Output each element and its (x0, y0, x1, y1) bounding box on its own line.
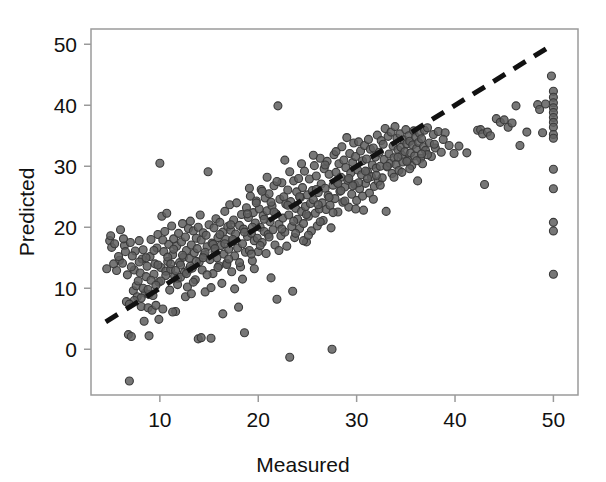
data-point (274, 102, 282, 110)
data-point (403, 157, 411, 165)
data-point (542, 100, 550, 108)
data-point (539, 129, 547, 137)
data-point (107, 232, 115, 240)
data-point (286, 168, 294, 176)
data-point (316, 218, 324, 226)
data-point (159, 305, 167, 313)
data-point (252, 199, 260, 207)
data-point (343, 134, 351, 142)
data-point (111, 240, 119, 248)
data-point (376, 181, 384, 189)
data-point (418, 135, 426, 143)
data-point (390, 173, 398, 181)
y-tick-label: 10 (54, 277, 77, 300)
data-point (135, 258, 143, 266)
data-point (394, 153, 402, 161)
data-point (332, 148, 340, 156)
data-point (196, 211, 204, 219)
data-point (245, 184, 253, 192)
data-point (267, 274, 275, 282)
data-point (233, 199, 241, 207)
data-point (127, 332, 135, 340)
data-point (437, 148, 445, 156)
data-point (258, 187, 266, 195)
data-point (243, 210, 251, 218)
data-point (547, 72, 555, 80)
x-tick-label: 20 (247, 408, 270, 431)
y-axis-title: Predicted (15, 168, 38, 257)
data-point (391, 123, 399, 131)
data-point (154, 261, 162, 269)
data-point (481, 181, 489, 189)
data-point (121, 248, 129, 256)
data-point (281, 156, 289, 164)
data-point (156, 159, 164, 167)
data-point (202, 231, 210, 239)
data-point (463, 149, 471, 157)
data-point (240, 228, 248, 236)
data-point (430, 140, 438, 148)
data-point (310, 162, 318, 170)
data-point (298, 160, 306, 168)
data-point (117, 226, 125, 234)
data-point (283, 242, 291, 250)
data-point (115, 253, 123, 261)
data-point (345, 174, 353, 182)
data-point (379, 140, 387, 148)
data-point (240, 329, 248, 337)
data-point (302, 210, 310, 218)
data-point (135, 237, 143, 245)
data-point (179, 251, 187, 259)
data-point (439, 135, 447, 143)
y-tick-label: 30 (54, 155, 77, 178)
plot-canvas: 102030405001020304050 Measured Predicted (0, 0, 606, 482)
data-point (450, 149, 458, 157)
data-point (181, 233, 189, 241)
y-tick-label: 50 (54, 33, 77, 56)
data-point (239, 275, 247, 283)
data-point (361, 167, 369, 175)
data-point (486, 132, 494, 140)
data-point (549, 227, 557, 235)
x-tick-label: 40 (443, 408, 466, 431)
data-point (125, 377, 133, 385)
data-point (359, 192, 367, 200)
data-point (549, 165, 557, 173)
data-point (275, 246, 283, 254)
data-point (231, 285, 239, 293)
data-point (512, 102, 520, 110)
data-point (166, 286, 174, 294)
data-point (414, 177, 422, 185)
data-point (418, 150, 426, 158)
data-point (369, 195, 377, 203)
data-point (340, 156, 348, 164)
data-point (186, 217, 194, 225)
data-point (119, 235, 127, 243)
data-point (516, 142, 524, 150)
data-point (147, 235, 155, 243)
data-point (508, 119, 516, 127)
data-point (263, 173, 271, 181)
data-point (549, 134, 557, 142)
data-point (383, 162, 391, 170)
data-point (523, 128, 531, 136)
data-point (203, 271, 211, 279)
x-tick-label: 50 (542, 408, 565, 431)
data-point (155, 315, 163, 323)
data-point (189, 278, 197, 286)
data-point (364, 135, 372, 143)
data-point (299, 184, 307, 192)
data-point (289, 287, 297, 295)
data-point (216, 231, 224, 239)
data-point (204, 168, 212, 176)
scatter-plot-figure: 102030405001020304050 Measured Predicted (0, 0, 606, 482)
data-point (228, 268, 236, 276)
data-point (325, 193, 333, 201)
data-point (278, 225, 286, 233)
y-tick-label: 0 (65, 338, 77, 361)
data-point (260, 215, 268, 223)
data-point (247, 250, 255, 258)
data-point (218, 279, 226, 287)
data-point (219, 310, 227, 318)
data-point (295, 174, 303, 182)
